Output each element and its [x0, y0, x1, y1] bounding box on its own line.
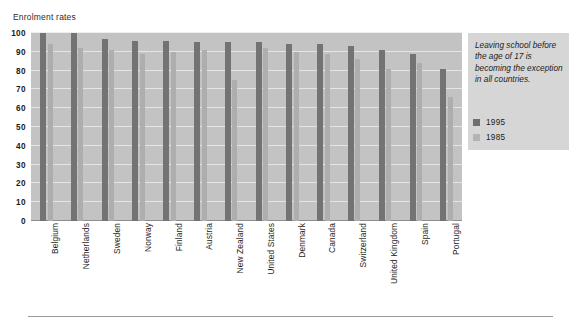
- y-axis-tick: 100: [11, 29, 26, 38]
- bar-1985: [448, 97, 453, 221]
- legend-swatch-icon: [473, 119, 480, 126]
- bar-group: [154, 33, 185, 221]
- bar-1985: [109, 50, 114, 221]
- bar-1995: [194, 42, 200, 221]
- bar-1995: [71, 33, 77, 221]
- legend-item: 1985: [473, 133, 563, 142]
- bar-group: [431, 33, 462, 221]
- bar-group: [123, 33, 154, 221]
- bar-group: [247, 33, 278, 221]
- bar-group: [339, 33, 370, 221]
- y-axis-tick: 90: [16, 47, 26, 56]
- y-axis-tick: 20: [16, 179, 26, 188]
- bar-group: [400, 33, 431, 221]
- x-axis-label: Canada: [327, 223, 337, 253]
- x-axis-label: Norway: [143, 223, 153, 252]
- bar-group: [370, 33, 401, 221]
- bar-1995: [132, 41, 138, 221]
- bar-group: [216, 33, 247, 221]
- x-axis-label: Spain: [420, 223, 430, 245]
- bar-1995: [379, 50, 385, 221]
- x-axis-label: Belgium: [50, 223, 60, 254]
- bar-1985: [202, 50, 207, 221]
- x-axis-label: Austria: [204, 223, 214, 250]
- y-axis-tick: 10: [16, 198, 26, 207]
- y-axis-tick: 40: [16, 141, 26, 150]
- bar-1985: [48, 44, 53, 221]
- bar-1985: [78, 48, 83, 221]
- plot-area: [31, 33, 462, 221]
- bar-group: [185, 33, 216, 221]
- bar-1995: [317, 44, 323, 221]
- bar-1995: [40, 33, 46, 221]
- x-axis-label: New Zealand: [235, 223, 245, 273]
- bar-1995: [163, 41, 169, 221]
- annotation-text: Leaving school before the age of 17 is b…: [475, 40, 564, 86]
- legend: 19951985: [473, 118, 563, 148]
- x-axis: BelgiumNetherlandsSwedenNorwayFinlandAus…: [31, 223, 462, 315]
- chart-title: Enrolment rates: [13, 12, 76, 22]
- bottom-divider: [28, 316, 553, 317]
- bar-group: [93, 33, 124, 221]
- y-axis-tick: 80: [16, 66, 26, 75]
- bar-group: [31, 33, 62, 221]
- enrolment-rates-figure: Enrolment rates 0102030405060708090100 B…: [0, 0, 581, 331]
- y-axis-tick: 0: [21, 217, 26, 226]
- bar-1995: [225, 42, 231, 221]
- x-axis-label: Denmark: [297, 223, 307, 258]
- bar-1995: [102, 39, 108, 221]
- bar-group: [308, 33, 339, 221]
- y-axis-tick: 60: [16, 104, 26, 113]
- y-axis-tick: 30: [16, 160, 26, 169]
- bar-1995: [256, 42, 262, 221]
- bar-1985: [417, 63, 422, 221]
- bar-group: [62, 33, 93, 221]
- x-axis-label: Switzerland: [358, 223, 368, 267]
- bar-1995: [440, 69, 446, 221]
- y-axis: 0102030405060708090100: [0, 33, 29, 221]
- bar-1985: [325, 54, 330, 221]
- bar-1985: [171, 52, 176, 221]
- x-axis-label: Netherlands: [81, 223, 91, 269]
- x-axis-label: Finland: [174, 223, 184, 251]
- bar-1985: [355, 59, 360, 221]
- x-axis-label: United States: [266, 223, 276, 275]
- y-axis-tick: 70: [16, 85, 26, 94]
- legend-label: 1995: [486, 118, 505, 127]
- bar-1995: [410, 54, 416, 221]
- bar-1985: [386, 69, 391, 221]
- x-axis-label: Portugal: [451, 223, 461, 255]
- bar-1985: [140, 54, 145, 221]
- bar-1995: [286, 44, 292, 221]
- x-axis-label: United Kingdom: [389, 223, 399, 284]
- bar-1985: [294, 52, 299, 221]
- x-axis-label: Sweden: [112, 223, 122, 254]
- bar-group: [277, 33, 308, 221]
- bar-1985: [232, 80, 237, 221]
- legend-swatch-icon: [473, 134, 480, 141]
- bar-1995: [348, 46, 354, 221]
- y-axis-tick: 50: [16, 123, 26, 132]
- bar-1985: [263, 48, 268, 221]
- legend-label: 1985: [486, 133, 505, 142]
- plot-inner: [31, 33, 462, 221]
- legend-item: 1995: [473, 118, 563, 127]
